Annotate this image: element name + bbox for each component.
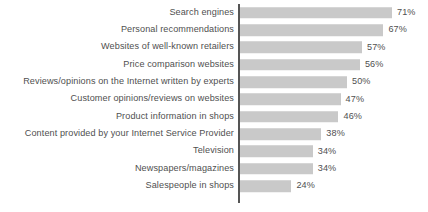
category-label: Television [193, 147, 234, 156]
category-label: Content provided by your Internet Servic… [25, 130, 234, 139]
bar-value-label: 38% [326, 130, 345, 139]
bar [240, 42, 362, 54]
bar-group: 47% [240, 94, 364, 106]
bar-value-label: 34% [318, 147, 337, 156]
chart-row: Salespeople in shops24% [0, 177, 428, 194]
chart-row: Content provided by your Internet Servic… [0, 125, 428, 142]
bar [240, 180, 291, 192]
bar-group: 34% [240, 146, 336, 158]
chart-row: Product information in shops46% [0, 108, 428, 125]
bar-value-label: 24% [296, 182, 315, 191]
bar-group: 46% [240, 111, 362, 123]
bar [240, 111, 338, 123]
bar-value-label: 47% [346, 95, 365, 104]
chart-rows: Search engines71%Personal recommendation… [0, 4, 428, 195]
chart-row: Websites of well-known retailers57% [0, 39, 428, 56]
category-label: Salespeople in shops [146, 182, 234, 191]
bar-group: 67% [240, 24, 407, 36]
chart-row: Customer opinions/reviews on websites47% [0, 91, 428, 108]
chart-row: Reviews/opinions on the Internet written… [0, 73, 428, 90]
bar-value-label: 67% [388, 25, 407, 34]
bar-value-label: 46% [343, 112, 362, 121]
bar [240, 146, 313, 158]
bar-value-label: 57% [367, 43, 386, 52]
bar-value-label: 56% [365, 60, 384, 69]
category-label: Search engines [169, 8, 234, 17]
bar [240, 94, 341, 106]
category-label: Websites of well-known retailers [101, 43, 234, 52]
category-label: Newspapers/magazines [135, 164, 234, 173]
bar-group: 50% [240, 76, 371, 88]
bar-group: 24% [240, 180, 315, 192]
category-label: Reviews/opinions on the Internet written… [23, 78, 234, 87]
horizontal-bar-chart: Search engines71%Personal recommendation… [0, 0, 428, 212]
category-label: Customer opinions/reviews on websites [71, 95, 234, 104]
bar-value-label: 71% [397, 8, 416, 17]
bar-value-label: 50% [352, 78, 371, 87]
bar [240, 24, 383, 36]
bar [240, 128, 321, 140]
chart-row: Search engines71% [0, 4, 428, 21]
bar-group: 71% [240, 7, 416, 19]
category-label: Personal recommendations [121, 25, 234, 34]
chart-row: Personal recommendations67% [0, 21, 428, 38]
bar [240, 59, 360, 71]
bar-group: 57% [240, 42, 386, 54]
category-label: Price comparison websites [123, 60, 234, 69]
bar-group: 34% [240, 163, 336, 175]
chart-row: Newspapers/magazines34% [0, 160, 428, 177]
bar [240, 76, 347, 88]
bar-value-label: 34% [318, 164, 337, 173]
bar [240, 163, 313, 175]
category-label: Product information in shops [116, 112, 234, 121]
bar [240, 7, 392, 19]
bar-group: 38% [240, 128, 345, 140]
chart-row: Television34% [0, 143, 428, 160]
bar-group: 56% [240, 59, 383, 71]
chart-row: Price comparison websites56% [0, 56, 428, 73]
